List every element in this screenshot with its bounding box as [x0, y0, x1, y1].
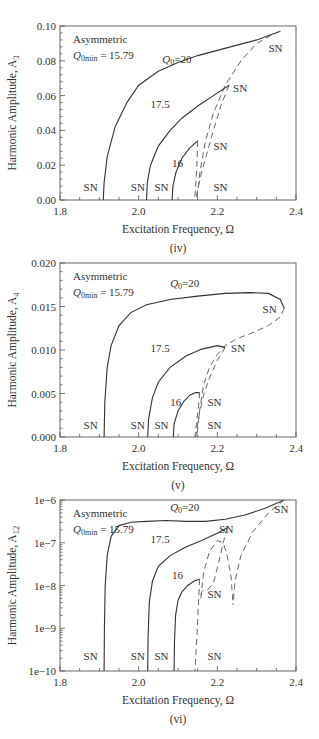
saddle-node-label: SN: [219, 523, 233, 535]
curve-label-q0: Q0=20: [170, 501, 200, 515]
x-axis-label: Excitation Frequency, Ω: [122, 460, 234, 473]
saddle-node-label: SN: [84, 181, 98, 193]
panel-label: (iv): [170, 242, 187, 255]
saddle-node-label: SN: [208, 419, 222, 431]
x-tick-label: 2.0: [132, 676, 146, 688]
y-tick-label: 0.010: [31, 344, 56, 356]
annotation-qmin: Q0min = 15.79: [73, 523, 134, 537]
saddle-node-label: SN: [233, 82, 247, 94]
plot-frame: [60, 500, 296, 671]
y-tick-label: 0.02: [37, 159, 56, 171]
curve-label: 17.5: [150, 342, 170, 354]
y-tick-label: 1e−7: [34, 537, 57, 549]
saddle-node-label: SN: [154, 650, 168, 662]
saddle-node-label: SN: [154, 419, 168, 431]
y-tick-label: 0.10: [37, 20, 57, 32]
y-tick-label: 0.00: [37, 194, 57, 206]
y-tick-label: 0.000: [31, 431, 56, 443]
x-tick-label: 2.0: [132, 205, 146, 217]
saddle-node-label: SN: [154, 181, 168, 193]
curve-q0-16-stable: [172, 141, 198, 200]
y-tick-label: 1e−6: [34, 494, 57, 506]
annotation-type: Asymmetric: [73, 270, 127, 282]
panel-label: (v): [171, 479, 185, 492]
curve-q0-20-unstable: [197, 31, 280, 200]
saddle-node-label: SN: [208, 588, 222, 600]
curve-label: 17.5: [150, 533, 170, 545]
y-tick-label: 0.015: [31, 301, 56, 313]
chart-panel-3: 1.82.02.22.41e−101e−91e−81e−71e−6Excitat…: [6, 494, 303, 726]
saddle-node-label: SN: [131, 650, 145, 662]
saddle-node-label: SN: [213, 140, 227, 152]
saddle-node-label: SN: [84, 650, 98, 662]
x-tick-label: 2.4: [289, 442, 303, 454]
x-tick-label: 2.2: [210, 442, 224, 454]
y-tick-label: 1e−9: [34, 622, 57, 634]
saddle-node-label: SN: [268, 42, 282, 54]
curve-label: 16: [170, 396, 182, 408]
figure-canvas: 1.82.02.22.40.000.020.040.060.080.10Exci…: [0, 0, 319, 739]
x-tick-label: 2.2: [210, 676, 224, 688]
saddle-node-label: SN: [213, 181, 227, 193]
curve-label: 17.5: [150, 98, 170, 110]
y-axis-label: Harmonic Amplitude, A12: [6, 526, 21, 645]
saddle-node-label: SN: [84, 419, 98, 431]
y-tick-label: 1e−8: [34, 580, 57, 592]
curve-q0-16-stable: [174, 579, 200, 671]
saddle-node-label: SN: [263, 303, 277, 315]
annotation-type: Asymmetric: [73, 33, 127, 45]
y-tick-label: 0.04: [37, 124, 57, 136]
saddle-node-label: SN: [231, 342, 245, 354]
y-tick-label: 0.06: [37, 90, 57, 102]
curve-label: 16: [172, 157, 184, 169]
saddle-node-label: SN: [131, 181, 145, 193]
curve-q0-16-unstable: [195, 579, 200, 671]
curve-label-q0: Q0=20: [162, 53, 192, 67]
saddle-node-label: SN: [131, 419, 145, 431]
x-axis-label: Excitation Frequency, Ω: [122, 694, 234, 707]
y-axis-label: Harmonic Amplitude, A3: [6, 55, 21, 170]
curve-label: 16: [172, 569, 184, 581]
y-tick-label: 1e−10: [28, 665, 56, 677]
x-tick-label: 1.8: [53, 676, 67, 688]
chart-panel-1: 1.82.02.22.40.000.020.040.060.080.10Exci…: [6, 20, 303, 255]
saddle-node-label: SN: [208, 396, 222, 408]
y-tick-label: 0.005: [31, 388, 56, 400]
x-tick-label: 2.2: [210, 205, 224, 217]
saddle-node-label: SN: [208, 650, 222, 662]
y-tick-label: 0.020: [31, 257, 56, 269]
annotation-qmin: Q0min = 15.79: [73, 49, 134, 63]
annotation-qmin: Q0min = 15.79: [73, 286, 134, 300]
panel-label: (vi): [170, 713, 187, 726]
x-tick-label: 1.8: [53, 442, 67, 454]
y-tick-label: 0.08: [37, 55, 57, 67]
x-tick-label: 2.4: [289, 676, 303, 688]
curve-q0-20-stable: [104, 293, 284, 437]
x-tick-label: 2.4: [289, 205, 303, 217]
saddle-node-label: SN: [274, 503, 288, 515]
y-axis-label: Harmonic Amplitude, A4: [6, 292, 21, 408]
chart-panel-2: 1.82.02.22.40.0000.0050.0100.0150.020Exc…: [6, 257, 303, 492]
x-tick-label: 1.8: [53, 205, 67, 217]
annotation-type: Asymmetric: [73, 507, 127, 519]
x-axis-label: Excitation Frequency, Ω: [122, 223, 234, 236]
curve-q0-20-unstable: [197, 308, 284, 437]
x-tick-label: 2.0: [132, 442, 146, 454]
curve-label-q0: Q0=20: [170, 277, 200, 291]
